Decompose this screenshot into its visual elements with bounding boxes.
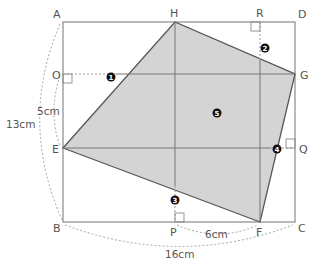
region-badge-2: 2	[261, 44, 270, 53]
label-point-p: P	[170, 226, 177, 239]
right-angle-q	[286, 139, 295, 148]
region-number-5: 5	[215, 110, 220, 118]
label-point-q: Q	[299, 143, 308, 156]
label-point-r: R	[256, 7, 264, 20]
region-badge-4: 4	[273, 145, 282, 154]
label-point-h: H	[170, 7, 178, 20]
region-badge-1: 1	[107, 73, 116, 82]
right-angle-o	[63, 74, 72, 83]
label-point-e: E	[52, 143, 59, 156]
region-number-4: 4	[275, 146, 280, 154]
label-point-d: D	[298, 8, 306, 21]
region-number-2: 2	[263, 45, 268, 53]
label-point-g: G	[300, 69, 309, 82]
right-angle-p	[175, 213, 184, 222]
geometry-diagram: A H R D O G E Q B P F C 13cm 5cm 6cm 16c…	[0, 0, 317, 268]
right-angle-r	[251, 22, 260, 31]
region-number-3: 3	[173, 197, 178, 205]
region-badge-3: 3	[171, 196, 180, 205]
label-13cm: 13cm	[6, 118, 35, 130]
label-6cm: 6cm	[205, 228, 228, 240]
arc-13cm	[40, 24, 63, 222]
label-point-f: F	[256, 226, 262, 239]
label-5cm: 5cm	[37, 105, 60, 117]
label-16cm: 16cm	[165, 248, 194, 260]
region-badge-5: 5	[213, 109, 222, 118]
label-point-a: A	[53, 8, 61, 21]
region-number-1: 1	[109, 74, 114, 82]
label-point-c: C	[298, 222, 306, 235]
label-point-b: B	[53, 222, 61, 235]
label-point-o: O	[52, 69, 61, 82]
